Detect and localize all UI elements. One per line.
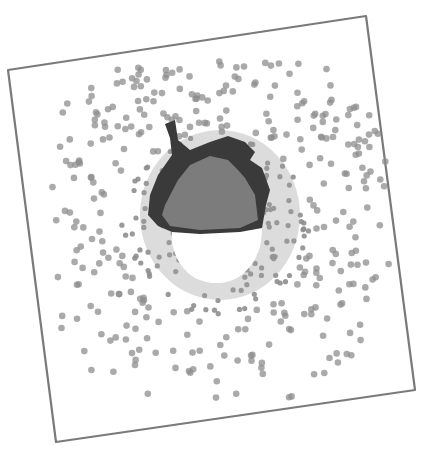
drawing-canvas: Pencil drawing of an acorn surrounded by… [0, 0, 437, 462]
acorn-drawing [0, 0, 437, 462]
